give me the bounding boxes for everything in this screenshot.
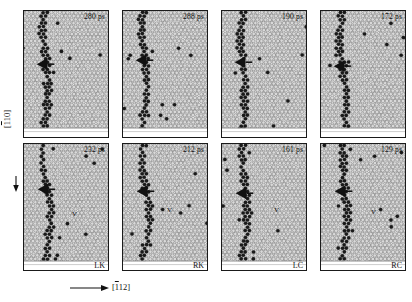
- horizontal-axis-overbar: 1: [115, 282, 119, 292]
- lattice-p7: [222, 144, 306, 270]
- panel-caption-p5: LK: [94, 261, 105, 270]
- panel-p8[interactable]: V 129 ps RC: [320, 143, 406, 271]
- panel-p7[interactable]: V 161 ps LC: [221, 143, 307, 271]
- time-label-p2: 288 ps: [183, 12, 204, 21]
- lattice-p8: [321, 144, 405, 270]
- lattice-p2: [123, 11, 207, 137]
- panel-p4[interactable]: 172 ps: [320, 10, 406, 138]
- panel-caption-p6: RK: [193, 261, 204, 270]
- time-label-p1: 280 ps: [84, 12, 105, 21]
- time-label-p6: 212 ps: [183, 145, 204, 154]
- vacancy-label-p5: V: [72, 210, 77, 218]
- vacancy-label-p6: V: [167, 206, 172, 214]
- time-label-p4: 172 ps: [381, 12, 402, 21]
- horizontal-axis-text: [112]: [112, 282, 130, 292]
- panel-caption-p7: LC: [293, 261, 303, 270]
- time-label-p7: 161 ps: [282, 145, 303, 154]
- lattice-p4: [321, 11, 405, 137]
- time-label-p8: 129 ps: [381, 145, 402, 154]
- lattice-p6: [123, 144, 207, 270]
- vertical-axis-label: [110]: [2, 110, 12, 128]
- vertical-axis-overbar: 1: [2, 121, 12, 125]
- lattice-p3: [222, 11, 306, 137]
- panel-caption-p8: RC: [391, 261, 402, 270]
- lattice-p5: [24, 144, 108, 270]
- horizontal-axis-label: [112]: [112, 282, 130, 292]
- vertical-axis-text: [110]: [2, 110, 12, 128]
- panel-p6[interactable]: V 212 ps RK: [122, 143, 208, 271]
- vacancy-label-p7: V: [274, 206, 279, 214]
- lattice-p1: [24, 11, 108, 137]
- panel-p3[interactable]: 190 ps: [221, 10, 307, 138]
- panel-p1[interactable]: 280 ps: [23, 10, 109, 138]
- panel-p5[interactable]: V 232 ps LK: [23, 143, 109, 271]
- vacancy-label-p8: V: [371, 208, 376, 216]
- panel-p2[interactable]: 288 ps: [122, 10, 208, 138]
- time-label-p5: 232 ps: [84, 145, 105, 154]
- time-label-p3: 190 ps: [282, 12, 303, 21]
